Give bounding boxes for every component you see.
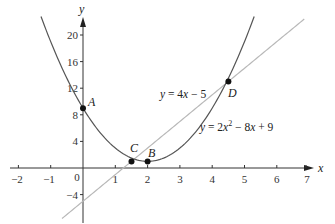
x-tick-label: 2 (145, 173, 151, 185)
x-tick-label: 3 (177, 173, 183, 185)
x-tick-label: 7 (304, 173, 310, 185)
y-tick-label: 20 (67, 29, 79, 41)
point-D-label: D (227, 86, 237, 100)
point-A-marker (80, 105, 86, 111)
point-D-marker (225, 79, 231, 85)
y-tick-label: 8 (73, 109, 79, 121)
parabola-equation-label: y = 2x2 − 8x + 9 (199, 119, 274, 134)
x-tick-label: −1 (43, 173, 55, 185)
y-tick-label: 12 (67, 82, 78, 94)
line-series (62, 19, 304, 219)
point-C-label: C (130, 141, 139, 155)
x-tick-label: 5 (242, 173, 248, 185)
y-tick-label: 16 (67, 56, 79, 68)
x-tick-labels: −2 −1 0 1 2 3 4 5 6 7 (11, 171, 310, 185)
chart-canvas: x y −2 −1 0 1 2 3 4 5 6 7 −4 (0, 0, 335, 224)
x-axis-label: x (317, 161, 324, 175)
x-tick-label: 4 (209, 173, 215, 185)
y-axis-label: y (78, 2, 85, 16)
point-B-label: B (148, 146, 156, 160)
y-tick-label: 4 (73, 135, 79, 147)
line-equation-label: y = 4x − 5 (159, 88, 206, 101)
origin-label: 0 (74, 171, 80, 183)
x-tick-label: −2 (11, 173, 23, 185)
y-tick-label: −4 (66, 189, 78, 201)
y-axis-arrow-icon (80, 17, 86, 27)
x-tick-label: 6 (274, 173, 280, 185)
point-A-label: A (87, 95, 96, 109)
point-C-marker (129, 158, 135, 164)
